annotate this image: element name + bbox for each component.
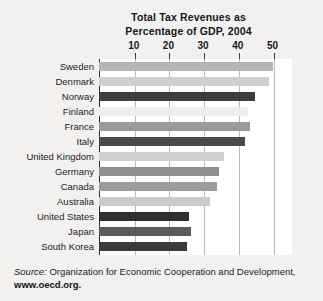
x-tick-label-20: 20: [163, 40, 174, 51]
bar-row: Sweden: [0, 59, 323, 74]
bar-rows: SwedenDenmarkNorwayFinlandFranceItalyUni…: [0, 59, 323, 255]
bar-row: United States: [0, 209, 323, 224]
chart-title: Total Tax Revenues as Percentage of GDP,…: [96, 11, 281, 38]
bar-japan: [99, 227, 191, 236]
category-label-canada: Canada: [2, 181, 94, 192]
category-label-sweden: Sweden: [2, 61, 94, 72]
bar-row: Australia: [0, 194, 323, 209]
bar-norway: [99, 92, 255, 101]
bar-row: Norway: [0, 89, 323, 104]
bar-united-kingdom: [99, 152, 224, 161]
category-label-norway: Norway: [2, 91, 94, 102]
bar-united-states: [99, 212, 189, 221]
category-label-south-korea: South Korea: [2, 241, 94, 252]
x-axis-tick-labels: 1020304050: [0, 40, 323, 54]
bar-france: [99, 122, 250, 131]
bar-finland: [99, 107, 248, 116]
bar-row: United Kingdom: [0, 149, 323, 164]
bar-canada: [99, 182, 217, 191]
bar-row: Finland: [0, 104, 323, 119]
bar-denmark: [99, 77, 269, 86]
source-line-1: Source: Organization for Economic Cooper…: [14, 266, 314, 278]
bar-germany: [99, 167, 219, 176]
source-prefix: Source:: [14, 266, 47, 277]
category-label-denmark: Denmark: [2, 76, 94, 87]
category-label-united-kingdom: United Kingdom: [2, 151, 94, 162]
bar-sweden: [99, 62, 273, 71]
x-tick-label-30: 30: [198, 40, 209, 51]
bar-south-korea: [99, 242, 187, 251]
bar-australia: [99, 197, 210, 206]
category-label-germany: Germany: [2, 166, 94, 177]
x-tick-label-50: 50: [267, 40, 278, 51]
x-tick-label-40: 40: [232, 40, 243, 51]
bar-row: France: [0, 119, 323, 134]
source-text: Organization for Economic Cooperation an…: [47, 266, 296, 277]
chart-figure: Total Tax Revenues as Percentage of GDP,…: [0, 0, 323, 301]
x-tick-label-10: 10: [128, 40, 139, 51]
category-label-australia: Australia: [2, 196, 94, 207]
bar-row: Germany: [0, 164, 323, 179]
bar-row: South Korea: [0, 239, 323, 254]
category-label-italy: Italy: [2, 136, 94, 147]
bar-row: Italy: [0, 134, 323, 149]
source-note: Source: Organization for Economic Cooper…: [14, 266, 314, 291]
category-label-france: France: [2, 121, 94, 132]
category-label-finland: Finland: [2, 106, 94, 117]
bar-italy: [99, 137, 245, 146]
chart-title-line-2: Percentage of GDP, 2004: [96, 25, 281, 39]
source-url: www.oecd.org.: [14, 279, 314, 291]
category-label-united-states: United States: [2, 211, 94, 222]
bar-row: Japan: [0, 224, 323, 239]
bar-row: Canada: [0, 179, 323, 194]
category-label-japan: Japan: [2, 226, 94, 237]
chart-title-line-1: Total Tax Revenues as: [96, 11, 281, 25]
bar-row: Denmark: [0, 74, 323, 89]
